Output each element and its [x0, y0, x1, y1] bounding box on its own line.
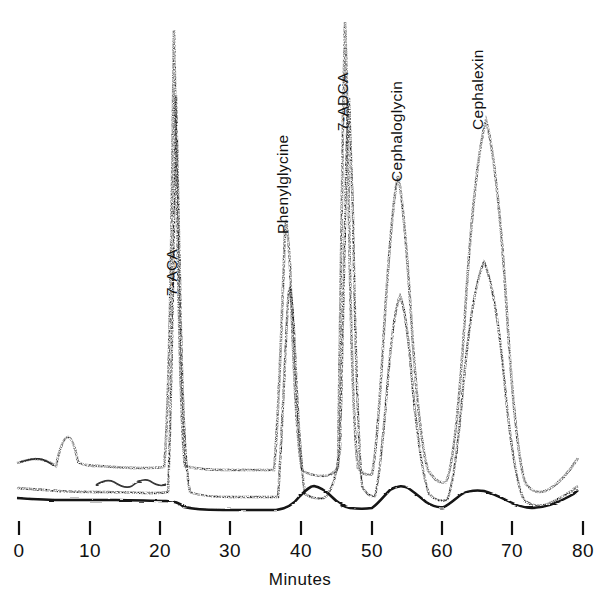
x-tick-label-70: 70 — [501, 540, 523, 562]
x-tick-label-60: 60 — [431, 540, 453, 562]
x-tick-label-50: 50 — [361, 540, 383, 562]
trace-lower — [17, 486, 578, 510]
x-tick-label-30: 30 — [219, 540, 241, 562]
peak-label-7-adca: 7-ADCA — [334, 72, 352, 131]
x-tick-label-80: 80 — [572, 540, 594, 562]
peak-label-phenylglycine: Phenylglycine — [274, 134, 292, 234]
peak-label-cephaloglycin: Cephaloglycin — [388, 81, 406, 182]
x-tick-label-20: 20 — [149, 540, 171, 562]
x-axis-ticks — [19, 521, 583, 535]
peak-label-cephalexin: Cephalexin — [469, 49, 487, 130]
x-tick-label-0: 0 — [13, 540, 24, 562]
peak-label-7-aca: 7-ACA — [163, 249, 181, 296]
x-tick-label-10: 10 — [79, 540, 101, 562]
baseline-texture — [20, 459, 166, 487]
x-axis-title: Minutes — [269, 570, 331, 590]
x-tick-label-40: 40 — [290, 540, 312, 562]
chromatogram-plot — [0, 0, 607, 600]
chromatogram-figure: 7-ACA Phenylglycine 7-ADCA Cephaloglycin… — [0, 0, 607, 600]
